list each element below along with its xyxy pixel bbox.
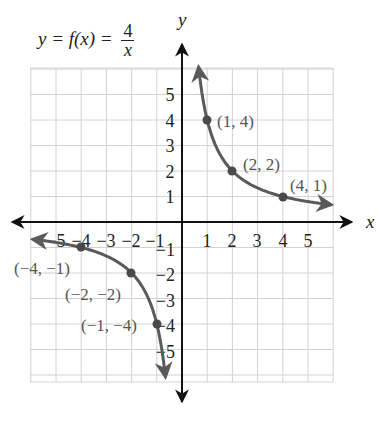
point-4-1 (279, 193, 288, 202)
y-tick-label: 2 (166, 162, 175, 182)
point-label: (−4, −1) (14, 259, 70, 278)
y-axis-label: y (176, 9, 187, 30)
x-tick-labels-negative: −5 −4 −3 −2 −1 (46, 231, 164, 251)
x-tick-label: 2 (228, 231, 237, 251)
x-tick-label: 1 (203, 231, 212, 251)
point-neg2-neg2 (127, 269, 136, 278)
y-tick-labels-positive: 1 2 3 4 5 (166, 85, 175, 207)
x-axis-label: x (365, 211, 375, 232)
point-label: (−2, −2) (65, 285, 121, 304)
y-tick-label: 3 (166, 136, 175, 156)
point-1-4 (203, 116, 212, 125)
point-neg4-neg1 (77, 243, 86, 252)
y-tick-label: −3 (156, 291, 175, 311)
point-label: (2, 2) (243, 155, 280, 174)
y-tick-label: 4 (166, 111, 175, 131)
y-tick-label: 1 (166, 187, 175, 207)
point-label: (−1, −4) (81, 316, 137, 335)
x-tick-label: 4 (279, 231, 288, 251)
x-tick-label: −3 (96, 231, 115, 251)
x-tick-label: −2 (121, 231, 140, 251)
y-tick-label: 5 (166, 85, 175, 105)
y-tick-label: −1 (156, 240, 175, 260)
graph: x y 1 2 3 4 5 −5 −4 −3 −2 −1 1 2 3 4 5 −… (0, 0, 381, 426)
point-2-2 (228, 167, 237, 176)
y-tick-label: −2 (156, 265, 175, 285)
y-tick-labels-negative: −1 −2 −3 −4 −5 (156, 240, 175, 362)
point-neg1-neg4 (153, 320, 162, 329)
y-tick-label: −5 (156, 342, 175, 362)
point-label: (1, 4) (217, 112, 254, 131)
point-label: (4, 1) (290, 176, 327, 195)
x-tick-label: 3 (253, 231, 262, 251)
x-tick-label: 5 (304, 231, 313, 251)
